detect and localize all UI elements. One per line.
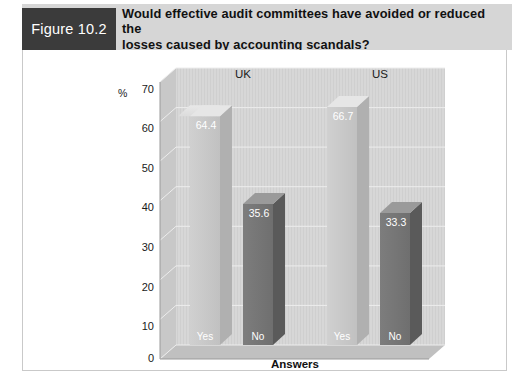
group-label-us: US	[350, 68, 410, 80]
y-tick-10: 10	[128, 320, 154, 332]
y-tick-60: 60	[128, 122, 154, 134]
bar-category-us-no: No	[375, 331, 415, 342]
group-label-uk: UK	[213, 68, 273, 80]
figure-title-line-1: Would effective audit committees have av…	[122, 6, 507, 37]
y-tick-20: 20	[128, 281, 154, 293]
figure-container: Figure 10.2 Would effective audit commit…	[0, 0, 525, 379]
x-axis-title: Answers	[235, 358, 355, 370]
bar-value-us-yes: 66.7	[321, 110, 365, 122]
figure-title: Would effective audit committees have av…	[122, 8, 507, 50]
y-tick-70: 70	[128, 83, 154, 95]
y-tick-0: 0	[128, 352, 154, 364]
y-axis-unit-label: %	[118, 87, 127, 99]
bar-value-uk-no: 35.6	[237, 207, 281, 219]
bar-category-us-yes: Yes	[322, 331, 362, 342]
bar-value-us-no: 33.3	[374, 216, 418, 228]
y-tick-40: 40	[128, 201, 154, 213]
bar-category-uk-yes: Yes	[185, 331, 225, 342]
figure-number-label: Figure 10.2	[31, 21, 107, 37]
bar-value-uk-yes: 64.4	[184, 119, 228, 131]
y-tick-50: 50	[128, 162, 154, 174]
bar-category-uk-no: No	[238, 331, 278, 342]
y-tick-30: 30	[128, 241, 154, 253]
figure-number-badge: Figure 10.2	[22, 8, 116, 50]
